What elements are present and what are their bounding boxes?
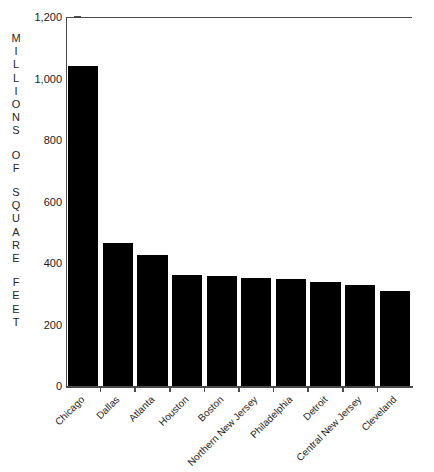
x-axis-tick-mark <box>307 386 309 392</box>
x-axis-tick-mark <box>342 386 344 392</box>
x-axis-tick-mark <box>377 386 379 392</box>
bar <box>103 243 133 386</box>
bar <box>310 282 340 386</box>
bar <box>207 276 237 386</box>
x-axis-tick-mark <box>100 386 102 392</box>
y-axis-tick-label: 800 <box>20 135 62 146</box>
bar <box>241 278 271 386</box>
bar <box>137 255 167 386</box>
bar-series <box>66 17 412 386</box>
y-axis-tick-label: 200 <box>20 319 62 330</box>
bar <box>172 275 202 386</box>
y-axis-tick-label: 600 <box>20 196 62 207</box>
bar <box>380 291 410 386</box>
x-axis-tick-mark <box>204 386 206 392</box>
x-axis-tick-mark <box>169 386 171 392</box>
y-axis-tick-label: 400 <box>20 258 62 269</box>
bar <box>345 285 375 386</box>
y-axis-tick-labels: 02004006008001,0001,200 <box>14 0 62 472</box>
y-axis-tick-label: 0 <box>20 381 62 392</box>
bar <box>68 66 98 386</box>
y-axis-tick-label: 1,000 <box>20 73 62 84</box>
x-axis-tick-mark <box>238 386 240 392</box>
bar <box>276 279 306 386</box>
y-axis-tick-label: 1,200 <box>20 12 62 23</box>
x-axis-tick-mark <box>134 386 136 392</box>
x-axis-tick-mark <box>273 386 275 392</box>
